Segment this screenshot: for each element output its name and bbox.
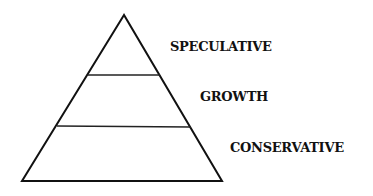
pyramid-shape [0, 0, 373, 196]
tier-label-conservative: CONSERVATIVE [230, 141, 344, 154]
investment-pyramid-diagram: SPECULATIVE GROWTH CONSERVATIVE [0, 0, 373, 196]
tier-label-speculative: SPECULATIVE [170, 40, 272, 53]
tier-label-growth: GROWTH [200, 90, 268, 103]
tier-divider-bottom [57, 126, 191, 127]
